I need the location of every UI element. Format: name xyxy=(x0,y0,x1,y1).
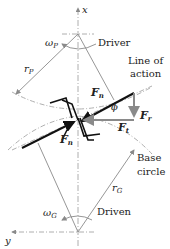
y-axis-label: y xyxy=(5,236,11,246)
omega-p-label: ωP xyxy=(45,38,58,50)
fn-bottom-label: Fn xyxy=(60,134,73,146)
driven-radius-rg xyxy=(78,150,134,232)
driven-label: Driven xyxy=(97,207,131,217)
line-of-action-label-2: action xyxy=(130,69,161,79)
base-circle-label-2: circle xyxy=(137,167,165,177)
x-axis-label: x xyxy=(82,5,88,15)
phi-label: ϕ xyxy=(111,102,118,112)
gear-diagram-canvas xyxy=(0,0,170,249)
fn-top-label: Fn xyxy=(91,87,104,99)
ft-label: Ft xyxy=(118,122,129,134)
line-of-action-label-1: Line of xyxy=(128,56,163,66)
rg-label: rG xyxy=(112,183,122,195)
base-circle-label-1: Base xyxy=(137,153,161,163)
omega-g-arc xyxy=(62,216,92,220)
rp-label: rP xyxy=(24,64,34,76)
driver-base-circle xyxy=(12,88,150,109)
force-fn-top xyxy=(82,93,134,121)
fr-label: Fr xyxy=(140,110,152,122)
driver-label: Driver xyxy=(98,38,130,48)
omega-g-label: ωG xyxy=(43,208,57,220)
